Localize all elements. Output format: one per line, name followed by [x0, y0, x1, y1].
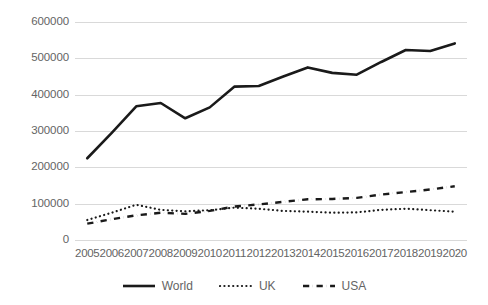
x-axis-tick-label: 2016 [345, 247, 369, 260]
gridline [75, 167, 467, 168]
dashdot-line-swatch [302, 280, 336, 292]
y-axis: 0100000200000300000400000500000600000 [0, 0, 69, 305]
y-axis-tick-label: 300000 [3, 125, 69, 136]
y-axis-tick-label: 500000 [3, 52, 69, 63]
y-axis-tick-label: 400000 [3, 89, 69, 100]
x-axis-tick-label: 2007 [124, 247, 148, 260]
x-axis-tick-label: 2009 [173, 247, 197, 260]
chart-legend: WorldUKUSA [0, 276, 488, 296]
line-chart: 0100000200000300000400000500000600000 20… [0, 0, 488, 305]
x-axis-tick-label: 2011 [222, 247, 246, 260]
legend-label: USA [342, 280, 367, 293]
y-axis-tick-label: 0 [3, 234, 69, 245]
x-axis-tick-label: 2017 [369, 247, 393, 260]
x-axis-tick-label: 2012 [247, 247, 271, 260]
gridline [75, 58, 467, 59]
x-axis: 2005200620072008200920102011201220132014… [75, 247, 467, 263]
x-axis-tick-label: 2018 [394, 247, 418, 260]
gridline [75, 95, 467, 96]
y-axis-tick-label: 600000 [3, 16, 69, 27]
gridline [75, 204, 467, 205]
x-axis-tick-label: 2006 [100, 247, 124, 260]
x-axis-tick-label: 2010 [198, 247, 222, 260]
x-axis-tick-label: 2014 [296, 247, 320, 260]
legend-item-usa[interactable]: USA [302, 280, 367, 293]
dotted-line-swatch [219, 280, 253, 292]
x-axis-line [75, 240, 467, 241]
x-axis-tick-label: 2005 [75, 247, 99, 260]
legend-item-world[interactable]: World [122, 280, 193, 293]
plot-area [75, 22, 467, 240]
y-axis-tick-label: 200000 [3, 161, 69, 172]
gridline [75, 131, 467, 132]
x-axis-tick-label: 2008 [149, 247, 173, 260]
legend-label: World [162, 280, 193, 293]
y-axis-tick-label: 100000 [3, 198, 69, 209]
x-axis-tick-label: 2020 [443, 247, 467, 260]
solid-line-swatch [122, 280, 156, 292]
x-axis-tick-label: 2019 [418, 247, 442, 260]
legend-item-uk[interactable]: UK [219, 280, 276, 293]
legend-label: UK [259, 280, 276, 293]
gridline [75, 22, 467, 23]
x-axis-tick-label: 2013 [271, 247, 295, 260]
x-axis-tick-label: 2015 [320, 247, 344, 260]
